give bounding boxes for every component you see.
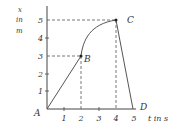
x-tick-labels: 1 2 3 4 5 bbox=[61, 114, 136, 123]
svg-text:4: 4 bbox=[37, 34, 43, 43]
svg-text:5: 5 bbox=[38, 16, 43, 25]
position-time-graph: 1 2 3 4 5 1 2 3 4 5 x in m t in s A B C … bbox=[0, 0, 183, 130]
graph-canvas: 1 2 3 4 5 1 2 3 4 5 x in m t in s A B C … bbox=[0, 0, 183, 130]
svg-text:D: D bbox=[139, 102, 147, 112]
x-axis-title: t in s bbox=[148, 114, 168, 123]
svg-text:3: 3 bbox=[96, 114, 101, 123]
point-c bbox=[115, 19, 118, 22]
svg-text:4: 4 bbox=[112, 114, 118, 123]
position-curve bbox=[47, 20, 133, 109]
svg-text:2: 2 bbox=[37, 70, 43, 79]
svg-text:in: in bbox=[16, 16, 23, 24]
svg-text:5: 5 bbox=[131, 114, 136, 123]
svg-text:2: 2 bbox=[77, 114, 83, 123]
svg-text:m: m bbox=[16, 27, 23, 35]
svg-text:1: 1 bbox=[61, 114, 66, 123]
svg-text:A: A bbox=[33, 108, 41, 118]
svg-text:x: x bbox=[18, 6, 22, 14]
svg-text:3: 3 bbox=[38, 52, 43, 61]
point-b bbox=[80, 55, 83, 58]
guide-lines bbox=[47, 20, 116, 109]
svg-text:C: C bbox=[127, 15, 134, 25]
svg-text:1: 1 bbox=[38, 87, 43, 96]
svg-text:B: B bbox=[83, 54, 91, 64]
y-axis-title: x in m bbox=[16, 6, 23, 35]
point-labels: A B C D bbox=[33, 15, 147, 118]
y-tick-labels: 1 2 3 4 5 bbox=[37, 16, 43, 96]
